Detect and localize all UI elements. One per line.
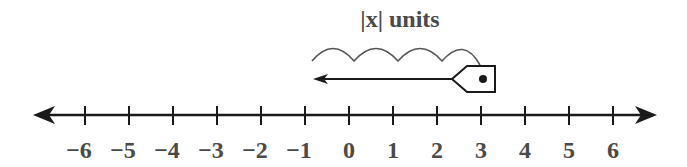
tick-label: −3 — [198, 137, 224, 163]
tick-label: −6 — [66, 137, 92, 163]
tick-label: −4 — [154, 137, 180, 163]
tick-labels: −6−5−4−3−2−10123456 — [66, 137, 619, 163]
tick-label: 1 — [387, 137, 399, 163]
pointer-tag — [452, 66, 495, 92]
number-line-diagram: |x| units −6−5−4−3−2−10123456 — [0, 0, 687, 167]
tick-label: 6 — [607, 137, 619, 163]
tick-label: 4 — [519, 137, 531, 163]
tick-label: −5 — [110, 137, 136, 163]
tick-label: −2 — [242, 137, 268, 163]
tick-label: 0 — [343, 137, 355, 163]
tick-label: 3 — [475, 137, 487, 163]
pointer-dot-icon — [479, 75, 487, 83]
jump-arcs — [312, 49, 480, 66]
tick-label: 2 — [431, 137, 443, 163]
tick-label: 5 — [563, 137, 575, 163]
absolute-value-units-label: |x| units — [360, 6, 439, 32]
tick-label: −1 — [286, 137, 312, 163]
